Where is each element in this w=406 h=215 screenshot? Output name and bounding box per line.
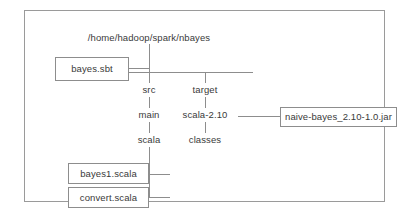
node-naive-bayes-jar: naive-bayes_2.10-1.0.jar [280,107,397,127]
connector-main-scala [149,122,150,133]
node-scala: scala [138,135,161,145]
connector-convert-scala [148,197,170,198]
diagram-frame: /home/hadoop/spark/nbayes bayes.sbt src … [24,10,385,202]
connector-target-scala210 [205,97,206,108]
node-classes: classes [189,135,221,145]
node-bayes1-scala: bayes1.scala [68,163,149,184]
connector-scala-drop [149,147,150,197]
node-target: target [193,85,218,95]
connector-bayes-sbt [129,68,150,69]
node-src: src [143,85,156,95]
connector-src-main [149,97,150,108]
connector-bayes1-scala [148,174,170,175]
root-path-label: /home/hadoop/spark/nbayes [88,33,210,43]
connector-jar [238,116,281,117]
connector-scala210-classes [205,122,206,133]
node-convert-scala: convert.scala [68,187,149,208]
connector-target-stem [205,72,206,83]
connector-main-bus [129,72,253,73]
node-bayes-sbt: bayes.sbt [55,57,129,81]
diagram-canvas: /home/hadoop/spark/nbayes bayes.sbt src … [0,0,406,215]
node-main: main [139,110,160,120]
connector-src-stem [149,72,150,83]
node-scala-2-10: scala-2.10 [183,110,228,120]
